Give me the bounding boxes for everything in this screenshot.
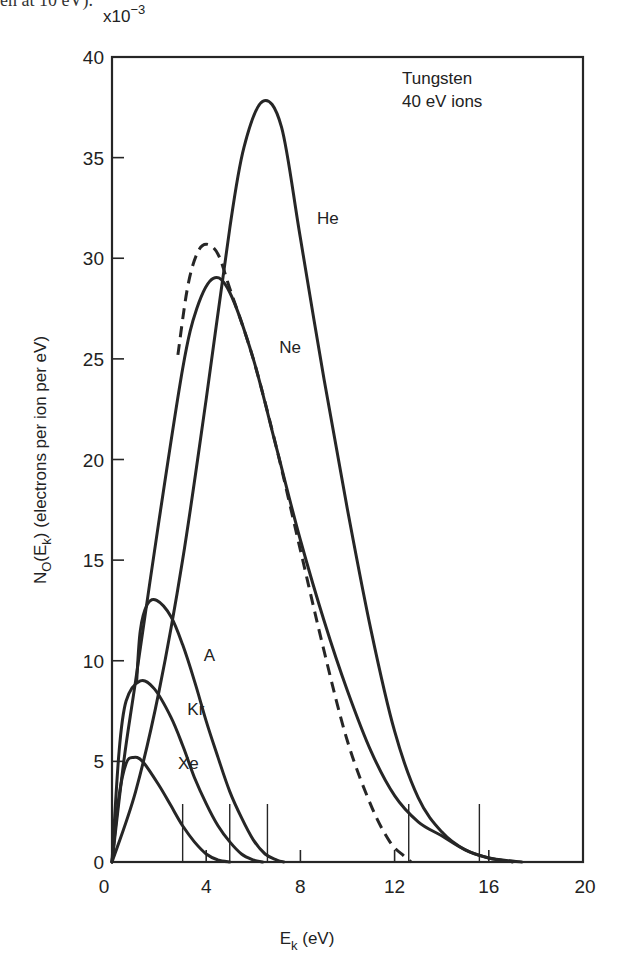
series-label: Kr bbox=[187, 700, 204, 719]
x-tick-label: 0 bbox=[99, 876, 110, 897]
y-tick-label: 20 bbox=[83, 450, 104, 471]
y-multiplier: x10−3 bbox=[103, 2, 145, 26]
y-tick-label: 35 bbox=[83, 148, 104, 169]
y-tick-label: 10 bbox=[83, 651, 104, 672]
x-tick-label: 12 bbox=[384, 876, 405, 897]
y-tick-label: 0 bbox=[93, 852, 104, 873]
y-axis-title: NO(Ek) (electrons per ion per eV) bbox=[31, 336, 54, 584]
x-tick-label: 4 bbox=[201, 876, 212, 897]
y-tick-label: 25 bbox=[83, 349, 104, 370]
chart: 0510152025303540048121620 HeNeAKrXe x10−… bbox=[0, 0, 625, 965]
y-tick-label: 30 bbox=[83, 248, 104, 269]
y-tick-label: 40 bbox=[83, 47, 104, 68]
axis-text: x10−3Tungsten40 eV ionsEk (eV)NO(Ek) (el… bbox=[31, 2, 482, 953]
y-tick-label: 5 bbox=[93, 751, 104, 772]
series-label: A bbox=[204, 646, 216, 665]
x-tick-label: 20 bbox=[574, 876, 595, 897]
series-label: Ne bbox=[279, 338, 301, 357]
x-tick-label: 16 bbox=[478, 876, 499, 897]
annotation-line: Tungsten bbox=[402, 69, 472, 88]
annotation-line: 40 eV ions bbox=[402, 92, 482, 111]
series-label: Xe bbox=[178, 754, 199, 773]
x-tick-label: 8 bbox=[295, 876, 306, 897]
x-axis-title: Ek (eV) bbox=[280, 929, 335, 953]
y-tick-label: 15 bbox=[83, 550, 104, 571]
curve-a bbox=[137, 599, 284, 862]
curve-ne bbox=[112, 278, 512, 862]
series-label: He bbox=[317, 209, 339, 228]
